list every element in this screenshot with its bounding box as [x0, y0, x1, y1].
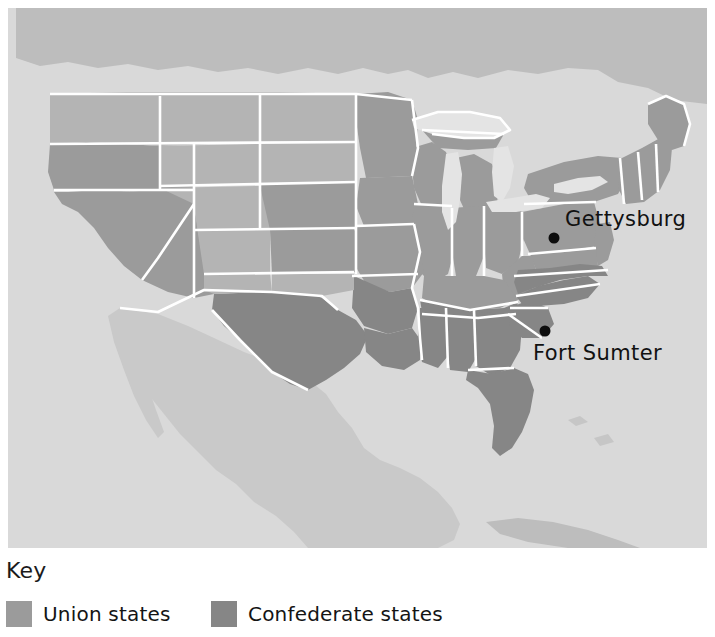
map-key: Key Union states Confederate states — [4, 556, 711, 634]
state-kansas — [270, 228, 356, 274]
fort-sumter-dot — [540, 326, 551, 337]
territory-montana-wyoming — [160, 144, 260, 186]
state-minnesota — [356, 92, 418, 178]
territory-dakota — [260, 142, 356, 184]
key-entry-confederate: Confederate states — [211, 601, 443, 627]
state-iowa — [356, 176, 418, 226]
map-canvas: Gettysburg Fort Sumter — [8, 8, 707, 548]
civil-war-map: Gettysburg Fort Sumter — [8, 8, 707, 548]
territory-washington-idaho — [50, 92, 356, 146]
union-color-swatch — [6, 601, 32, 627]
gettysburg-label: Gettysburg — [565, 207, 686, 231]
key-title: Key — [6, 558, 47, 584]
confederate-key-label: Confederate states — [248, 602, 443, 626]
key-entry-union: Union states — [6, 601, 171, 627]
state-nebraska — [260, 182, 356, 230]
map-page: Gettysburg Fort Sumter Key Union states … — [0, 0, 715, 637]
confederate-color-swatch — [211, 601, 237, 627]
fort-sumter-label: Fort Sumter — [533, 341, 662, 365]
union-key-label: Union states — [43, 602, 171, 626]
gettysburg-dot — [549, 233, 560, 244]
